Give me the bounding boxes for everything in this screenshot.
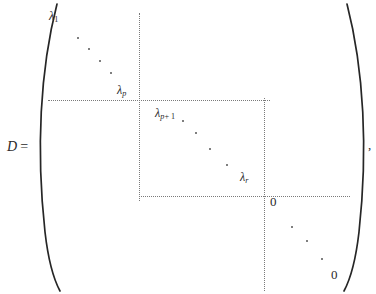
left-paren-icon [40, 4, 60, 291]
eigenvalue-label-lambda-1: λ1 [49, 10, 58, 24]
ellipsis-dot [209, 148, 211, 150]
matrix-diagram: D= λ1 λp λp+ 1 λr 0 0 , [0, 0, 376, 294]
partition-line-horizontal-upper [48, 100, 270, 101]
eigenvalue-label-lambda-r: λr [240, 171, 249, 185]
ellipsis-dot [99, 60, 101, 62]
zero-block-upper-right: 0 [270, 195, 277, 208]
ellipsis-dot [77, 37, 79, 39]
ellipsis-dot [226, 164, 228, 166]
trailing-comma: , [368, 138, 371, 151]
partition-line-vertical-left [139, 13, 140, 201]
ellipsis-dot [291, 226, 293, 228]
ellipsis-dot [182, 120, 184, 122]
lhs-expression: D= [7, 140, 28, 154]
ellipsis-dot [321, 258, 323, 260]
subscript-p: p [122, 89, 126, 98]
partition-line-vertical-right [264, 98, 265, 291]
eigenvalue-label-lambda-p-plus-1: λp+ 1 [155, 107, 175, 121]
ellipsis-dot [306, 240, 308, 242]
right-paren-icon [344, 4, 364, 291]
matrix-brackets [0, 0, 376, 294]
ellipsis-dot [110, 72, 112, 74]
equals-sign: = [17, 139, 28, 154]
subscript-plus-one: + 1 [164, 112, 175, 121]
ellipsis-dot [195, 132, 197, 134]
matrix-symbol-D: D [7, 139, 17, 154]
partition-line-horizontal-lower [139, 196, 350, 197]
subscript-r: r [245, 176, 248, 185]
zero-block-lower-right: 0 [331, 268, 338, 281]
ellipsis-dot [88, 48, 90, 50]
eigenvalue-label-lambda-p: λp [117, 84, 126, 98]
subscript-1: 1 [54, 15, 58, 24]
